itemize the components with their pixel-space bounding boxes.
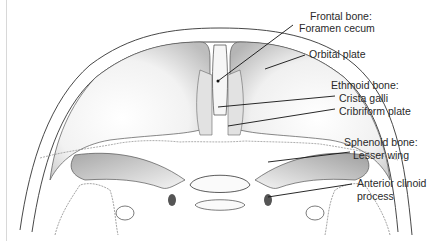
label-ethmoid-bone: Ethmoid bone: [331, 79, 399, 91]
label-anterior-clinoid: Anterior clinoid [357, 177, 426, 189]
label-crista-galli: Crista galli [339, 92, 388, 104]
left-cribriform-plate [197, 70, 212, 135]
tuberculum-sellae [190, 175, 250, 192]
right-anterior-clinoid [264, 194, 272, 206]
right-foramen [306, 206, 324, 220]
label-sphenoid-bone: Sphenoid bone: [344, 136, 418, 148]
left-middle-fossa-edge [55, 184, 118, 235]
left-lesser-wing [71, 153, 185, 188]
label-orbital-plate: Orbital plate [309, 48, 366, 60]
right-lesser-wing [255, 153, 369, 188]
left-foramen [116, 206, 134, 220]
skull-base-illustration [0, 0, 444, 241]
label-lesser-wing: Lesser wing [353, 149, 409, 161]
label-cribriform-plate: Cribriform plate [339, 105, 411, 117]
left-anterior-clinoid [168, 194, 176, 206]
label-foramen-cecum: Foramen cecum [299, 22, 375, 34]
anatomy-diagram: Frontal bone: Foramen cecum Orbital plat… [0, 0, 444, 241]
label-process: process [357, 190, 394, 202]
dorsum-sellae [195, 200, 245, 211]
label-frontal-bone: Frontal bone: [310, 10, 372, 22]
